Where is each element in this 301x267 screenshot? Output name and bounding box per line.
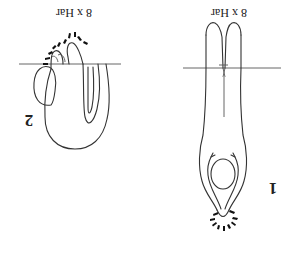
panel-2-number: 2 [25,111,34,130]
panel-2-tip-ticks [43,32,88,65]
panel-2-inner-arm [83,64,99,123]
panel-1-oval [211,159,235,189]
rotated-figure-group: 8 x Har [19,6,281,231]
panel-1-base-lobe-right [206,23,223,68]
panel-2-tip-main [67,43,83,64]
panel-1-number: 1 [269,179,278,198]
panel-1-apex-ticks [210,210,238,231]
panel-1: 8 x Har [183,6,281,231]
panel-2-inner-arm-core [88,67,94,113]
diagram-canvas: 8 x Har [0,0,301,267]
diagram-svg: 8 x Har [0,0,301,267]
panel-1-base-lobe-left [225,23,241,68]
panel-1-tip [217,210,229,217]
panel-2: 8 x Har [19,6,121,149]
panel-1-magnification-label: 8 x Har [211,6,247,20]
panel-1-central-seam [223,68,225,117]
panel-2-magnification-label: 8 x Har [56,6,92,20]
